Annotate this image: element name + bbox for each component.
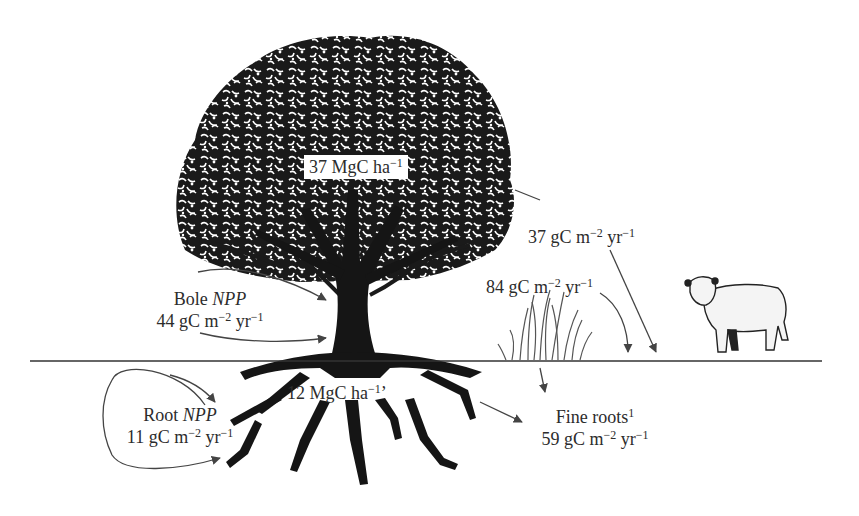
fine-roots-exp2: −1: [636, 428, 649, 442]
root-npp-label: Root NPP 11 gC m−2 yr−1: [100, 404, 260, 448]
root-npp-title-italic: NPP: [183, 405, 217, 425]
canopy-stock-value: 37 MgC ha: [309, 157, 390, 177]
grass-flux-value: 84 gC m: [486, 277, 548, 297]
root-npp-value: 11 gC m: [127, 427, 188, 447]
root-npp-unit2: yr: [201, 427, 221, 447]
grass-flux-exp1: −2: [548, 276, 561, 290]
bole-npp-title: Bole NPP: [130, 288, 290, 310]
arrow-litterfall-in: [515, 190, 540, 200]
tree-roots: [226, 352, 482, 485]
bole-npp-exp1: −2: [218, 310, 231, 324]
fine-roots-exp1: −2: [603, 428, 616, 442]
root-stock-value: 12 MgC ha: [287, 383, 368, 403]
litterfall-label: 37 gC m−2 yr−1: [528, 226, 635, 248]
root-npp-title: Root NPP: [100, 404, 260, 426]
arrow-grass-flux: [600, 293, 628, 352]
litterfall-value: 37 gC m: [528, 227, 590, 247]
bole-npp-label: Bole NPP 44 gC m−2 yr−1: [130, 288, 290, 332]
bole-npp-value-line: 44 gC m−2 yr−1: [130, 310, 290, 332]
bole-npp-title-italic: NPP: [212, 289, 246, 309]
bole-npp-exp2: −1: [251, 310, 264, 324]
arrow-fine-roots-1: [480, 402, 522, 422]
arrow-root-npp-top: [170, 375, 215, 402]
root-stock-mark: ’: [381, 383, 387, 403]
arrow-litterfall-out: [610, 250, 656, 352]
bole-npp-value: 44 gC m: [156, 311, 218, 331]
canopy-stock-label: 37 MgC ha−1: [304, 155, 408, 179]
litterfall-exp2: −1: [622, 226, 635, 240]
fine-roots-value-line: 59 gC m−2 yr−1: [520, 428, 670, 450]
root-stock-exp: −1: [368, 382, 381, 396]
litterfall-unit2: yr: [603, 227, 623, 247]
litterfall-exp1: −2: [590, 226, 603, 240]
grass-flux-exp2: −1: [580, 276, 593, 290]
arrow-bole-bottom: [200, 333, 326, 341]
fine-roots-label: Fine roots1 59 gC m−2 yr−1: [520, 406, 670, 450]
grass-tuft: [498, 290, 592, 360]
grass-flux-label: 84 gC m−2 yr−1: [486, 276, 593, 298]
canopy-stock-exp: −1: [390, 156, 403, 170]
root-npp-value-line: 11 gC m−2 yr−1: [100, 426, 260, 448]
bole-npp-title-text: Bole: [174, 289, 213, 309]
arrow-fine-roots-2: [540, 368, 545, 392]
cow-icon: [685, 277, 788, 352]
bole-npp-unit2: yr: [231, 311, 251, 331]
root-npp-exp2: −1: [220, 426, 233, 440]
fine-roots-value: 59 gC m: [541, 429, 603, 449]
fine-roots-title-text: Fine roots: [556, 407, 629, 427]
root-npp-title-text: Root: [143, 405, 183, 425]
fine-roots-footnote: 1: [628, 406, 634, 420]
fine-roots-unit2: yr: [616, 429, 636, 449]
grass-flux-unit2: yr: [561, 277, 581, 297]
root-stock-label: 12 MgC ha−1’: [287, 382, 387, 404]
root-npp-exp1: −2: [188, 426, 201, 440]
fine-roots-title: Fine roots1: [520, 406, 670, 428]
